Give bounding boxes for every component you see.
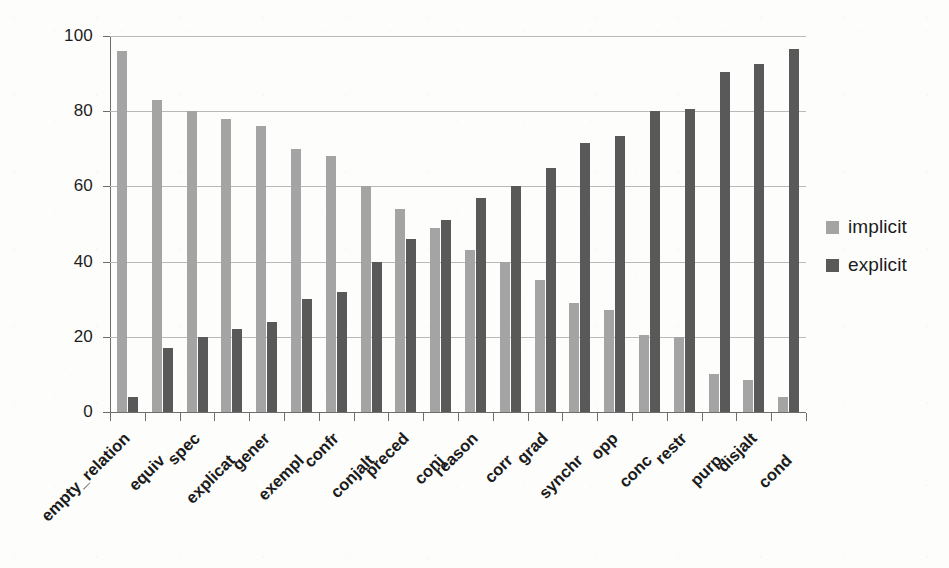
bar-group — [778, 36, 799, 412]
x-axis-label: exempl — [153, 451, 308, 568]
x-axis-label: restr — [536, 429, 691, 568]
bar-explicit — [372, 262, 382, 412]
x-tick — [493, 413, 494, 421]
x-axis-label: conjalt — [223, 451, 378, 568]
x-axis-label: opp — [466, 429, 621, 568]
y-tick — [103, 337, 110, 338]
legend-swatch-icon — [826, 221, 839, 234]
y-tick-label: 0 — [0, 402, 93, 422]
bar-implicit — [430, 228, 440, 412]
bar-explicit — [546, 168, 556, 412]
gridline-40 — [110, 262, 806, 263]
y-tick — [103, 262, 110, 263]
x-tick — [284, 413, 285, 421]
bar-explicit — [615, 136, 625, 412]
y-tick-label: 60 — [0, 176, 93, 196]
x-axis-label: cond — [640, 451, 795, 568]
bar-explicit — [789, 49, 799, 412]
bar-group — [187, 36, 208, 412]
bar-implicit — [535, 280, 545, 412]
bar-implicit — [361, 186, 371, 412]
legend-label: explicit — [848, 254, 907, 276]
y-tick — [103, 36, 110, 37]
x-axis-label: grad — [397, 429, 552, 568]
x-tick — [771, 413, 772, 421]
bar-implicit — [569, 303, 579, 412]
bar-group — [709, 36, 730, 412]
bar-group — [291, 36, 312, 412]
bar-group — [326, 36, 347, 412]
bar-group — [639, 36, 660, 412]
gridline-80 — [110, 111, 806, 112]
x-axis-label: conc — [501, 451, 656, 568]
x-tick — [806, 413, 807, 421]
bar-explicit — [685, 109, 695, 412]
bar-implicit — [709, 374, 719, 412]
bar-group — [361, 36, 382, 412]
x-tick — [562, 413, 563, 421]
x-tick — [249, 413, 250, 421]
legend-item-implicit: implicit — [826, 216, 941, 238]
x-axis-label: synchr — [432, 451, 587, 568]
bar-implicit — [256, 126, 266, 412]
x-axis-label: purp — [571, 451, 726, 568]
bar-explicit — [128, 397, 138, 412]
y-tick — [103, 111, 110, 112]
x-tick — [597, 413, 598, 421]
x-tick — [458, 413, 459, 421]
y-axis-labels: 100 80 60 40 20 0 — [0, 0, 110, 450]
bar-explicit — [650, 111, 660, 412]
x-tick — [319, 413, 320, 421]
x-axis-label: confr — [188, 429, 343, 568]
x-tick — [145, 413, 146, 421]
bar-implicit — [743, 380, 753, 412]
bar-group — [535, 36, 556, 412]
bar-group — [395, 36, 416, 412]
x-tick — [702, 413, 703, 421]
bar-explicit — [337, 292, 347, 412]
x-axis-label: disjalt — [606, 429, 761, 568]
gridline-100 — [110, 36, 806, 37]
bar-implicit — [291, 149, 301, 412]
bar-implicit — [187, 111, 197, 412]
x-tick — [736, 413, 737, 421]
bar-chart: 100 80 60 40 20 0 empty_relationequivspe… — [0, 0, 949, 568]
x-axis-label: reason — [327, 429, 482, 568]
x-tick — [214, 413, 215, 421]
bar-implicit — [778, 397, 788, 412]
bar-group — [465, 36, 486, 412]
bar-group — [743, 36, 764, 412]
bar-explicit — [754, 64, 764, 412]
x-tick — [632, 413, 633, 421]
bar-group — [256, 36, 277, 412]
bar-explicit — [406, 239, 416, 412]
bar-implicit — [604, 310, 614, 412]
x-axis-label: explicat — [84, 451, 239, 568]
bar-group — [500, 36, 521, 412]
bar-implicit — [395, 209, 405, 412]
gridline-20 — [110, 337, 806, 338]
bar-explicit — [476, 198, 486, 412]
legend-item-explicit: explicit — [826, 254, 941, 276]
bar-explicit — [720, 72, 730, 412]
x-axis-label: conj — [292, 451, 447, 568]
bar-implicit — [465, 250, 475, 412]
y-tick-label: 80 — [0, 101, 93, 121]
bar-explicit — [267, 322, 277, 412]
bar-implicit — [326, 156, 336, 412]
y-tick-label: 100 — [0, 26, 93, 46]
legend-label: implicit — [848, 216, 907, 238]
bar-explicit — [163, 348, 173, 412]
bar-explicit — [302, 299, 312, 412]
x-tick — [528, 413, 529, 421]
bar-implicit — [152, 100, 162, 412]
bar-group — [569, 36, 590, 412]
plot-area — [110, 36, 806, 412]
x-tick — [354, 413, 355, 421]
x-tick — [180, 413, 181, 421]
bar-group — [674, 36, 695, 412]
x-tick — [388, 413, 389, 421]
bar-explicit — [580, 143, 590, 412]
x-tick — [423, 413, 424, 421]
y-tick-label: 20 — [0, 327, 93, 347]
